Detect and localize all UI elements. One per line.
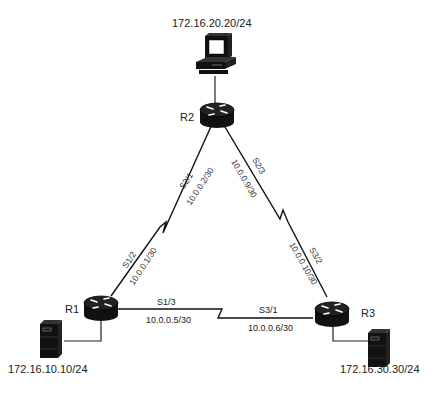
r3-server-link — [333, 325, 368, 341]
r1-label: R1 — [65, 304, 79, 315]
r1-s1-3-ip-label: 10.0.0.5/30 — [146, 316, 191, 325]
r3-s3-1-ip-label: 10.0.0.6/30 — [248, 324, 293, 333]
r3-label: R3 — [361, 308, 375, 319]
router-icon-r1 — [84, 296, 118, 321]
network-diagram: 172.16.20.20/24 R2 R1 R3 172.16.10.10/24… — [0, 0, 435, 393]
computer-icon — [196, 33, 236, 74]
topology-drawing — [0, 0, 435, 393]
r1-s1-3-iface-label: S1/3 — [157, 298, 176, 307]
r3-s3-1-iface-label: S3/1 — [259, 306, 278, 315]
serial-link-r1-r2 — [111, 122, 213, 296]
router-icon-r2 — [200, 103, 234, 128]
server-icon-1 — [40, 320, 62, 358]
router-icon-r3 — [315, 302, 349, 327]
r2-label: R2 — [180, 112, 194, 123]
r1-server-link — [64, 318, 101, 341]
pc-address-label: 172.16.20.20/24 — [172, 18, 252, 29]
server3-address-label: 172.16.30.30/24 — [340, 364, 420, 375]
server1-address-label: 172.16.10.10/24 — [8, 364, 88, 375]
server-icon-3 — [368, 329, 390, 367]
